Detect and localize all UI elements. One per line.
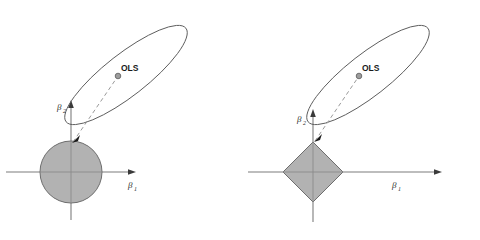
x-axis: [248, 169, 442, 175]
x-axis-label-symbol: β: [391, 180, 397, 190]
x-axis-label-symbol: β: [127, 180, 133, 190]
tangency-arrow-icon: [314, 134, 322, 142]
ols-point-marker: [115, 73, 121, 79]
dashed-connector: [315, 79, 357, 141]
axis-overlay: [283, 142, 343, 202]
y-axis-label-symbol: β: [56, 102, 62, 112]
y-axis-label-subscript: 2: [63, 108, 66, 114]
y-axis-label-subscript: 2: [303, 120, 306, 126]
x-axis-label-subscript: 1: [398, 186, 401, 192]
rss-contour-ellipse: [53, 12, 199, 139]
rss-contour-ellipse: [295, 12, 441, 139]
ols-label: OLS: [362, 63, 380, 73]
x-axis-label: β 1: [391, 180, 401, 192]
ols-point-marker: [356, 73, 362, 79]
regularization-figure: OLS β 2 β 1: [0, 0, 480, 240]
x-axis-label-subscript: 1: [134, 186, 137, 192]
lasso-l1-panel: OLS β 2 β 1: [240, 0, 480, 240]
x-axis-label: β 1: [127, 180, 137, 192]
ridge-l2-panel: OLS β 2 β 1: [0, 0, 240, 240]
dashed-connector: [73, 79, 116, 142]
ols-label: OLS: [121, 63, 139, 73]
y-axis-label: β 2: [56, 102, 66, 114]
y-axis-label: β 2: [296, 114, 306, 126]
y-axis-label-symbol: β: [296, 114, 302, 124]
